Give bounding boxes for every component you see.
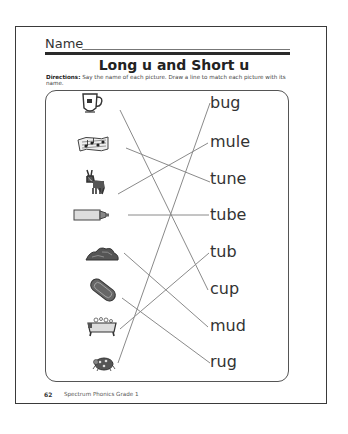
word-mud[interactable]: mud bbox=[210, 317, 246, 335]
cup-icon bbox=[79, 92, 107, 116]
mule-icon bbox=[84, 168, 106, 196]
match-line-tub bbox=[120, 253, 209, 329]
word-mule[interactable]: mule bbox=[210, 133, 250, 151]
word-rug[interactable]: rug bbox=[210, 353, 237, 371]
word-tune[interactable]: tune bbox=[210, 170, 246, 188]
match-line-bug bbox=[118, 103, 210, 363]
tube-icon bbox=[72, 208, 112, 222]
match-lines bbox=[0, 0, 348, 434]
page-number: 62 bbox=[44, 391, 52, 398]
bug-icon bbox=[92, 354, 116, 372]
bathtub-icon bbox=[86, 315, 118, 337]
word-tub[interactable]: tub bbox=[210, 243, 237, 261]
music-notes-icon bbox=[76, 134, 110, 154]
word-cup[interactable]: cup bbox=[210, 280, 239, 298]
rug-icon bbox=[88, 276, 118, 304]
word-bug[interactable]: bug bbox=[210, 94, 240, 112]
word-tube[interactable]: tube bbox=[210, 206, 246, 224]
match-line-rug bbox=[122, 298, 210, 363]
match-line-tune bbox=[126, 148, 210, 182]
match-line-cup bbox=[120, 110, 208, 290]
mud-icon bbox=[84, 243, 120, 263]
book-title: Spectrum Phonics Grade 1 bbox=[64, 391, 138, 397]
